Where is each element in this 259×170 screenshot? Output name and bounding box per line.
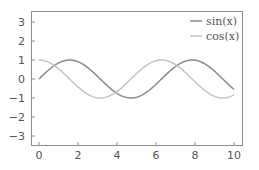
x-tick-label: 8 bbox=[192, 149, 199, 162]
y-tick-label: −3 bbox=[9, 130, 25, 143]
y-tick-label: 1 bbox=[18, 54, 25, 67]
series-line-sin bbox=[39, 60, 234, 98]
y-tick-label: 0 bbox=[18, 73, 25, 86]
legend-label-sin: sin(x) bbox=[206, 15, 237, 28]
legend-label-cos: cos(x) bbox=[206, 30, 239, 43]
y-tick-label: 2 bbox=[18, 35, 25, 48]
y-tick-label: −2 bbox=[9, 111, 25, 124]
legend: sin(x) cos(x) bbox=[190, 15, 239, 43]
x-tick-label: 10 bbox=[227, 149, 241, 162]
plot-lines bbox=[39, 60, 234, 98]
x-tick-label: 4 bbox=[114, 149, 121, 162]
y-tick-label: 3 bbox=[18, 16, 25, 29]
x-tick-label: 2 bbox=[75, 149, 82, 162]
line-chart: 3210−1−2−3 0246810 sin(x) cos(x) bbox=[0, 0, 259, 170]
series-line-cos bbox=[39, 60, 234, 98]
y-tick-label: −1 bbox=[9, 92, 25, 105]
x-tick-label: 0 bbox=[36, 149, 43, 162]
x-tick-label: 6 bbox=[153, 149, 160, 162]
